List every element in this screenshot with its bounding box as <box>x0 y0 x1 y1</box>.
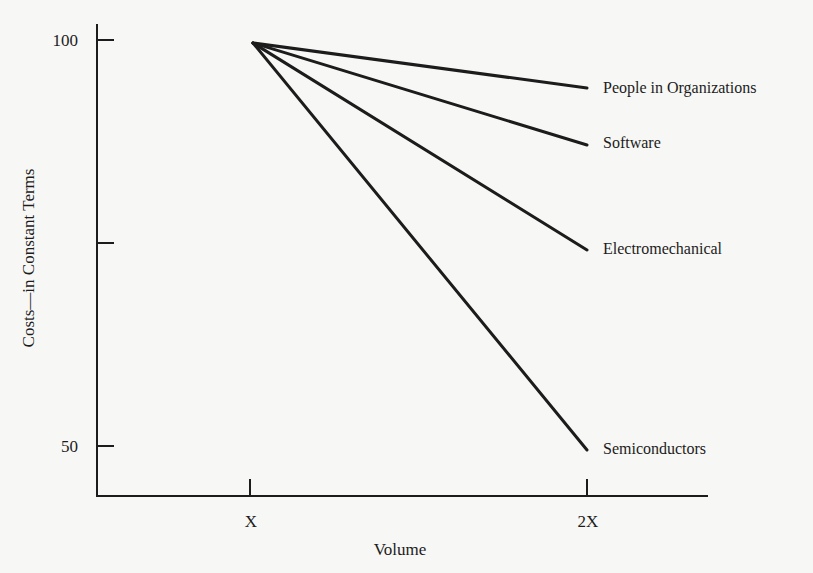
y-axis-title: Costs—in Constant Terms <box>19 169 38 348</box>
line-software <box>253 43 587 145</box>
label-software: Software <box>603 134 661 151</box>
label-people-in-organizations: People in Organizations <box>603 79 756 97</box>
chart-canvas: 100 50 X 2X Volume Costs—in Constant Ter… <box>0 0 813 573</box>
label-semiconductors: Semiconductors <box>603 440 706 457</box>
x-tick-label-2x: 2X <box>578 512 599 531</box>
series-lines <box>253 43 587 450</box>
y-tick-label-100: 100 <box>53 31 79 50</box>
y-tick-label-50: 50 <box>61 437 78 456</box>
line-semiconductors <box>253 43 587 450</box>
line-people-in-organizations <box>253 43 587 88</box>
line-electromechanical <box>253 43 587 250</box>
x-tick-label-x: X <box>245 512 257 531</box>
x-axis-title: Volume <box>374 540 427 559</box>
label-electromechanical: Electromechanical <box>603 240 723 257</box>
